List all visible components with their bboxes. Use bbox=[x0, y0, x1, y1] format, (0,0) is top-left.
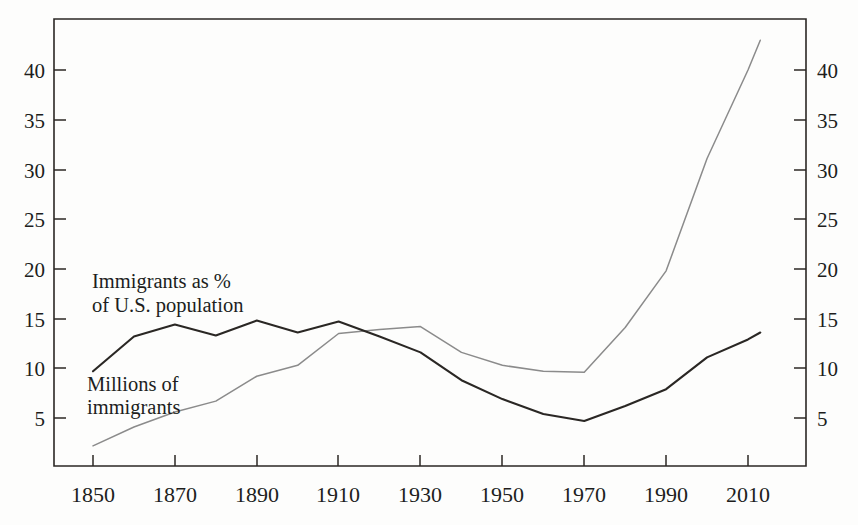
x-tick-label-1930: 1930 bbox=[398, 482, 442, 507]
y-tick-label-left-5: 5 bbox=[35, 407, 46, 431]
x-tick-label-1990: 1990 bbox=[644, 482, 688, 507]
x-tick-label-1870: 1870 bbox=[153, 482, 197, 507]
series-line-immigrants-percent-of-population bbox=[93, 321, 760, 421]
x-tick-label-1850: 1850 bbox=[71, 482, 115, 507]
x-tick-label-1890: 1890 bbox=[235, 482, 279, 507]
y-tick-label-right-40: 40 bbox=[817, 59, 838, 83]
y-tick-label-right-5: 5 bbox=[817, 407, 828, 431]
x-tick-label-1910: 1910 bbox=[316, 482, 360, 507]
x-axis-ticks bbox=[93, 455, 748, 466]
millions-series-label-line2: immigrants bbox=[87, 396, 180, 419]
x-axis-tick-labels: 1850 1870 1890 1910 1930 1950 1970 1990 … bbox=[71, 482, 770, 507]
immigration-chart-figure: 5 10 15 20 25 30 35 40 5 10 15 20 25 30 … bbox=[0, 0, 858, 525]
percent-series-label-line2: of U.S. population bbox=[92, 294, 243, 317]
y-tick-label-left-40: 40 bbox=[24, 59, 45, 83]
y-tick-label-left-35: 35 bbox=[24, 109, 45, 133]
series-line-millions-of-immigrants bbox=[93, 40, 760, 446]
right-axis-ticks bbox=[794, 70, 806, 418]
y-tick-label-right-35: 35 bbox=[817, 109, 838, 133]
chart-canvas: 5 10 15 20 25 30 35 40 5 10 15 20 25 30 … bbox=[0, 0, 858, 525]
y-tick-label-right-30: 30 bbox=[817, 159, 838, 183]
left-axis-ticks bbox=[54, 70, 66, 418]
y-tick-label-right-15: 15 bbox=[817, 308, 838, 332]
x-tick-label-1970: 1970 bbox=[562, 482, 606, 507]
y-tick-label-left-15: 15 bbox=[24, 308, 45, 332]
percent-series-label-line1: Immigrants as % bbox=[92, 270, 231, 293]
y-tick-label-left-25: 25 bbox=[24, 208, 45, 232]
millions-series-label: Millions of immigrants bbox=[87, 373, 180, 419]
left-axis-tick-labels: 5 10 15 20 25 30 35 40 bbox=[24, 59, 45, 431]
percent-series-label: Immigrants as % of U.S. population bbox=[92, 270, 243, 317]
x-tick-label-2010: 2010 bbox=[726, 482, 770, 507]
y-tick-label-right-10: 10 bbox=[817, 357, 838, 381]
right-axis-tick-labels: 5 10 15 20 25 30 35 40 bbox=[817, 59, 838, 431]
y-tick-label-left-20: 20 bbox=[24, 258, 45, 282]
y-tick-label-right-20: 20 bbox=[817, 258, 838, 282]
millions-series-label-line1: Millions of bbox=[87, 373, 179, 395]
y-tick-label-right-25: 25 bbox=[817, 208, 838, 232]
x-tick-label-1950: 1950 bbox=[480, 482, 524, 507]
y-tick-label-left-10: 10 bbox=[24, 357, 45, 381]
y-tick-label-left-30: 30 bbox=[24, 159, 45, 183]
